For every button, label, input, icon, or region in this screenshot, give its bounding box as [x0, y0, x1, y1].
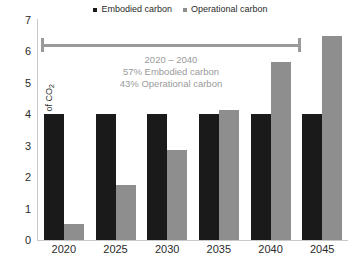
y-axis-tick-label: 1 [25, 203, 38, 214]
legend-item-operational-carbon[interactable]: Operational carbon [183, 4, 268, 15]
x-axis-tick-label-2035: 2035 [193, 243, 245, 256]
plot-area: Gigatons of CO2 76543210 [38, 20, 348, 240]
x-axis-labels: 202020252030203520402045 [38, 243, 348, 256]
x-axis-tick-label-2040: 2040 [245, 243, 297, 256]
bar-operational-2030[interactable] [167, 150, 187, 240]
plot-inner: Gigatons of CO2 76543210 [38, 20, 348, 240]
y-axis-tick-label: 2 [25, 172, 38, 183]
x-axis-tick-label-2020: 2020 [38, 243, 90, 256]
bar-embodied-2040[interactable] [251, 114, 271, 240]
bar-embodied-2030[interactable] [147, 114, 167, 240]
bar-group-2025 [90, 20, 142, 240]
bar-operational-2040[interactable] [271, 62, 291, 240]
bar-operational-2045[interactable] [322, 36, 342, 240]
bar-groups [38, 20, 348, 240]
legend-label-operational-carbon: Operational carbon [191, 4, 268, 15]
bar-operational-2035[interactable] [219, 110, 239, 240]
y-axis-tick-label: 5 [25, 77, 38, 88]
y-axis-tick-label: 3 [25, 140, 38, 151]
bar-embodied-2035[interactable] [199, 114, 219, 240]
bar-operational-2025[interactable] [116, 185, 136, 240]
y-axis-tick-label: 0 [25, 235, 38, 246]
bar-embodied-2025[interactable] [96, 114, 116, 240]
legend-item-embodied-carbon[interactable]: Embodied carbon [93, 4, 172, 15]
y-axis-tick-label: 6 [25, 46, 38, 57]
y-axis-tick-label: 7 [25, 15, 38, 26]
bar-operational-2020[interactable] [64, 224, 84, 240]
x-axis-line [37, 240, 348, 241]
legend-label-embodied-carbon: Embodied carbon [101, 4, 172, 15]
bar-group-2045 [296, 20, 348, 240]
bar-embodied-2045[interactable] [302, 114, 322, 240]
y-axis-tick-label: 4 [25, 109, 38, 120]
x-axis-tick-label-2045: 2045 [296, 243, 348, 256]
square-marker-icon [183, 8, 187, 12]
square-marker-icon [93, 8, 97, 12]
bar-group-2040 [245, 20, 297, 240]
bar-group-2020 [38, 20, 90, 240]
bar-group-2035 [193, 20, 245, 240]
chart-legend: Embodied carbon Operational carbon [0, 4, 361, 15]
carbon-emissions-bar-chart: Embodied carbon Operational carbon Gigat… [0, 0, 361, 262]
bar-embodied-2020[interactable] [44, 114, 64, 240]
x-axis-tick-label-2030: 2030 [141, 243, 193, 256]
bar-group-2030 [141, 20, 193, 240]
x-axis-tick-label-2025: 2025 [90, 243, 142, 256]
